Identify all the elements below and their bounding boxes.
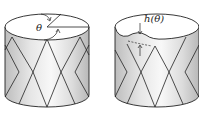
theta-label: θ — [36, 23, 42, 33]
h-theta-label: h(θ) — [144, 14, 164, 24]
left-cylinder — [5, 14, 89, 107]
diagram-canvas — [0, 0, 199, 120]
right-cylinder — [115, 14, 199, 107]
